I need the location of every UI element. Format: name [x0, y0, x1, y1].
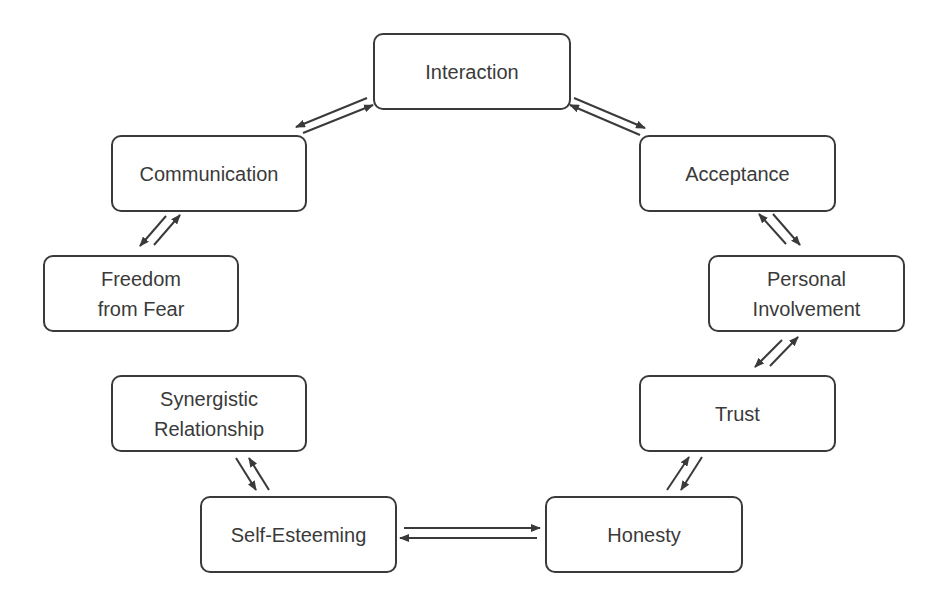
- arrow-freedom-to-communication: [154, 215, 180, 245]
- arrow-honesty-to-trust: [667, 457, 689, 490]
- node-communication: Communication: [111, 135, 307, 212]
- node-freedom-from-fear: Freedom from Fear: [43, 255, 239, 332]
- node-personal-involvement: Personal Involvement: [708, 255, 905, 332]
- node-trust: Trust: [639, 375, 836, 452]
- arrow-involvement-to-acceptance: [759, 214, 786, 244]
- arrow-interaction-to-acceptance: [574, 98, 645, 128]
- node-interaction: Interaction: [373, 33, 571, 110]
- node-label: Communication: [140, 159, 279, 189]
- node-label: Trust: [715, 399, 760, 429]
- arrow-involvement-to-trust: [755, 340, 782, 367]
- node-label: Acceptance: [685, 159, 790, 189]
- node-label: Personal Involvement: [753, 264, 861, 324]
- node-label: Self-Esteeming: [231, 520, 367, 550]
- node-synergistic-relationship: Synergistic Relationship: [111, 375, 307, 452]
- node-self-esteeming: Self-Esteeming: [200, 496, 397, 573]
- node-label: Freedom from Fear: [98, 264, 185, 324]
- node-label: Synergistic Relationship: [154, 384, 264, 444]
- node-honesty: Honesty: [545, 496, 743, 573]
- arrow-acceptance-to-involvement: [773, 214, 800, 245]
- arrow-communication-to-freedom: [140, 216, 166, 246]
- arrow-acceptance-to-interaction: [570, 105, 640, 135]
- node-acceptance: Acceptance: [639, 135, 836, 212]
- node-label: Interaction: [425, 57, 518, 87]
- arrow-trust-to-involvement: [770, 337, 798, 366]
- arrow-trust-to-honesty: [681, 457, 702, 490]
- node-label: Honesty: [607, 520, 680, 550]
